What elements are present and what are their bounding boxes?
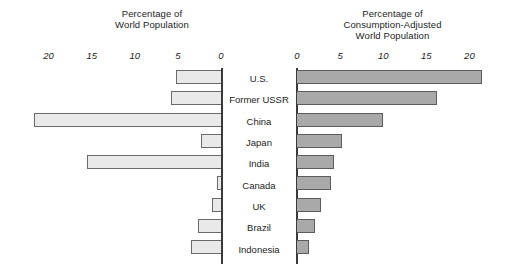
bar-right-japan (297, 134, 342, 148)
right-bar-track (297, 238, 515, 259)
right-tick-10: 10 (378, 50, 389, 61)
bar-left-canada (217, 176, 221, 190)
chart-row: U.S. (0, 68, 515, 89)
chart-row: Brazil (0, 217, 515, 238)
left-bar-track (0, 217, 221, 238)
chart-row: Former USSR (0, 89, 515, 110)
bar-right-indonesia (297, 240, 309, 254)
left-bar-track (0, 68, 221, 89)
left-tick-15: 15 (86, 50, 97, 61)
right-tick-15: 15 (421, 50, 432, 61)
left-bar-track (0, 89, 221, 110)
bar-left-japan (201, 134, 221, 148)
category-label: UK (223, 196, 295, 217)
left-tick-20: 20 (43, 50, 54, 61)
bar-left-uk (212, 198, 221, 212)
category-label: Former USSR (223, 89, 295, 110)
bar-right-india (297, 155, 334, 169)
chart-row: Canada (0, 174, 515, 195)
right-axis-ticks: 05101520 (280, 50, 515, 62)
chart-row: Indonesia (0, 238, 515, 259)
bar-left-india (87, 155, 221, 169)
category-label: China (223, 111, 295, 132)
left-bar-track (0, 238, 221, 259)
left-bar-track (0, 196, 221, 217)
chart-rows: U.S.Former USSRChinaJapanIndiaCanadaUKBr… (0, 68, 515, 264)
category-label: Canada (223, 174, 295, 195)
category-label: Indonesia (223, 238, 295, 259)
left-tick-10: 10 (130, 50, 141, 61)
bar-left-u-s (176, 70, 221, 84)
left-bar-track (0, 132, 221, 153)
right-bar-track (297, 174, 515, 195)
chart-row: China (0, 111, 515, 132)
right-axis-title: Percentage of Consumption-Adjusted World… (300, 8, 485, 41)
right-tick-5: 5 (337, 50, 342, 61)
right-tick-20: 20 (464, 50, 475, 61)
bar-right-u-s (297, 70, 482, 84)
right-bar-track (297, 68, 515, 89)
right-bar-track (297, 89, 515, 110)
bar-right-canada (297, 176, 331, 190)
left-bar-track (0, 153, 221, 174)
bar-right-uk (297, 198, 321, 212)
left-axis-title: Percentage of World Population (72, 8, 232, 30)
left-tick-0: 0 (218, 50, 223, 61)
chart-row: UK (0, 196, 515, 217)
right-tick-0: 0 (294, 50, 299, 61)
right-bar-track (297, 217, 515, 238)
category-label: Brazil (223, 217, 295, 238)
right-bar-track (297, 132, 515, 153)
left-tick-5: 5 (175, 50, 180, 61)
category-label: India (223, 153, 295, 174)
right-bar-track (297, 196, 515, 217)
chart-row: Japan (0, 132, 515, 153)
bar-left-indonesia (191, 240, 221, 254)
category-label: U.S. (223, 68, 295, 89)
category-label: Japan (223, 132, 295, 153)
right-bar-track (297, 153, 515, 174)
bar-right-former-ussr (297, 91, 437, 105)
bar-right-china (297, 113, 383, 127)
bar-right-brazil (297, 219, 315, 233)
bar-left-brazil (198, 219, 221, 233)
left-bar-track (0, 174, 221, 195)
left-bar-track (0, 111, 221, 132)
bar-left-china (34, 113, 221, 127)
right-bar-track (297, 111, 515, 132)
chart-row: India (0, 153, 515, 174)
back-to-back-bar-chart: Percentage of World Population Percentag… (0, 0, 515, 268)
bar-left-former-ussr (171, 91, 221, 105)
left-axis-ticks: 20151050 (0, 50, 230, 62)
